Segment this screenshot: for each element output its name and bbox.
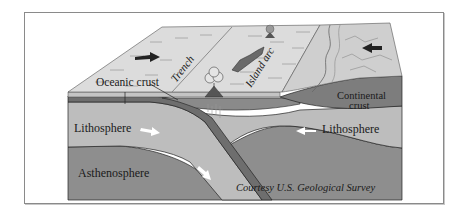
oceanic-crust-label: Oceanic crust (96, 76, 160, 88)
plate-boundary-diagram: Oceanic crust Trench Island arc Continen… (0, 0, 466, 216)
lithosphere-right-label: Lithosphere (322, 122, 379, 136)
asthenosphere-label: Asthenosphere (78, 166, 149, 180)
continental-crust-label-line2: crust (349, 100, 369, 111)
arc-volcano-plume (266, 25, 274, 33)
surface-edge (68, 92, 280, 97)
credit-label: Courtesy U.S. Geological Survey (236, 182, 375, 193)
lithosphere-left-label: Lithosphere (74, 121, 131, 135)
